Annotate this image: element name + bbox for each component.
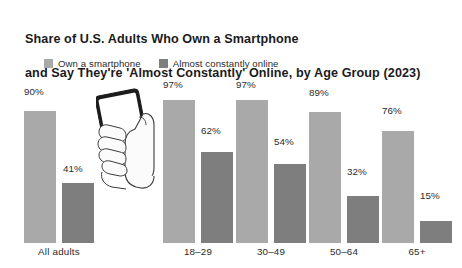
bar-value-label: 15% bbox=[420, 190, 440, 201]
x-axis-group-label: 65+ bbox=[382, 246, 452, 257]
hand-holding-smartphone-icon bbox=[96, 84, 178, 196]
x-axis-group-label: All adults bbox=[24, 246, 94, 257]
bar-value-label: 90% bbox=[24, 86, 44, 97]
bar-value-label: 97% bbox=[236, 79, 256, 90]
x-axis-group-label: 30–49 bbox=[236, 246, 306, 257]
bar-value-label: 89% bbox=[309, 87, 329, 98]
bar bbox=[24, 111, 56, 243]
bar-value-label: 32% bbox=[347, 166, 367, 177]
bar bbox=[309, 112, 341, 243]
bar bbox=[274, 164, 306, 243]
chart-container: Share of U.S. Adults Who Own a Smartphon… bbox=[0, 0, 462, 268]
bar bbox=[420, 221, 452, 243]
bar bbox=[347, 196, 379, 243]
bar-value-label: 41% bbox=[63, 163, 83, 174]
bar bbox=[62, 183, 94, 243]
bar-value-label: 76% bbox=[382, 105, 402, 116]
bar bbox=[236, 100, 268, 243]
plot-area: 90%41%97%62%97%54%89%32%76%15%All adults… bbox=[0, 0, 462, 268]
bar bbox=[201, 152, 233, 243]
x-axis-group-label: 18–29 bbox=[163, 246, 233, 257]
x-axis-group-label: 50–64 bbox=[309, 246, 379, 257]
bar-value-label: 62% bbox=[201, 125, 221, 136]
bar bbox=[382, 131, 414, 243]
bar-value-label: 54% bbox=[274, 136, 294, 147]
